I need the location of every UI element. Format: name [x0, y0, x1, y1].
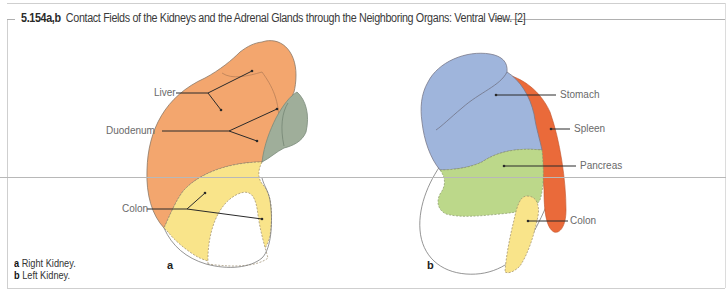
scan-line-artifact [0, 177, 726, 178]
kidney-diagram: Liver Duodenum Colon Stomach Spleen Panc… [0, 0, 726, 291]
caption-b: b Left Kidney. [14, 270, 70, 281]
caption-b-letter: b [14, 270, 20, 281]
label-liver: Liver [154, 87, 176, 98]
panel-letter-a: a [167, 259, 173, 271]
left-kidney: Stomach Spleen Pancreas Colon [420, 53, 622, 274]
panel-letter-b: b [427, 259, 434, 271]
right-kidney: Liver Duodenum Colon [106, 41, 308, 268]
label-duodenum: Duodenum [106, 125, 155, 136]
caption-a-text: Right Kidney. [22, 258, 76, 269]
caption-a: a Right Kidney. [14, 258, 76, 269]
label-colon-b: Colon [570, 215, 596, 226]
caption-b-text: Left Kidney. [22, 270, 70, 281]
label-stomach: Stomach [560, 89, 599, 100]
label-spleen: Spleen [574, 123, 605, 134]
label-colon-a: Colon [122, 203, 148, 214]
label-pancreas: Pancreas [580, 160, 622, 171]
caption-a-letter: a [14, 258, 19, 269]
